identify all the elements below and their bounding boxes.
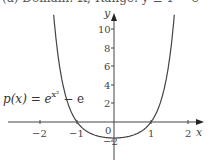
y-tick-label: 10 xyxy=(98,24,111,35)
y-axis-arrow-icon xyxy=(111,13,117,21)
x-tick-label: −1 xyxy=(69,128,84,139)
function-label-suffix: − e xyxy=(59,92,84,106)
function-label-base: p(x) = e xyxy=(3,92,52,106)
origin-label: 0 xyxy=(105,125,111,136)
y-tick-label: 8 xyxy=(104,43,110,54)
y-tick-label: 4 xyxy=(104,80,110,91)
y-tick-label: 2 xyxy=(104,98,110,109)
plot-area: −2 −1 1 2 10 8 6 4 2 0 −2 x y xyxy=(0,0,212,161)
x-tick-label: −2 xyxy=(32,128,47,139)
x-axis-arrow-icon xyxy=(196,119,204,125)
x-axis-label: x xyxy=(196,126,203,139)
x-tick-label: 1 xyxy=(148,128,154,139)
x-tick-label: 2 xyxy=(185,128,191,139)
y-axis-label: y xyxy=(103,7,111,20)
function-label: p(x) = ex² − e xyxy=(3,90,84,106)
y-tick-label: 6 xyxy=(104,61,110,72)
